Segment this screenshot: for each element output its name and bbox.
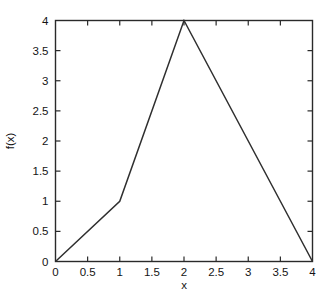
x-tick-label: 2 xyxy=(181,266,187,278)
x-tick-label: 4 xyxy=(309,266,316,278)
line-chart-svg: 00.511.522.533.54 00.511.522.533.54 x f(… xyxy=(0,0,335,300)
chart-background xyxy=(0,0,335,300)
x-tick-label: 0 xyxy=(52,266,58,278)
x-axis-title: x xyxy=(181,279,187,291)
y-axis-title: f(x) xyxy=(4,133,16,150)
y-tick-label: 0.5 xyxy=(33,225,49,237)
y-tick-label: 0 xyxy=(42,256,48,268)
chart-figure: 00.511.522.533.54 00.511.522.533.54 x f(… xyxy=(0,0,335,300)
x-tick-label: 1 xyxy=(117,266,123,278)
y-tick-label: 3 xyxy=(42,75,48,87)
y-tick-label: 2 xyxy=(42,135,48,147)
y-tick-label: 1 xyxy=(42,195,48,207)
x-tick-labels-group: 00.511.522.533.54 xyxy=(52,266,316,278)
x-tick-label: 3.5 xyxy=(272,266,288,278)
x-tick-label: 0.5 xyxy=(80,266,96,278)
y-tick-label: 1.5 xyxy=(33,165,49,177)
y-tick-label: 3.5 xyxy=(33,45,49,57)
x-tick-label: 3 xyxy=(245,266,251,278)
y-tick-label: 2.5 xyxy=(33,105,49,117)
x-tick-label: 1.5 xyxy=(144,266,160,278)
x-tick-label: 2.5 xyxy=(208,266,224,278)
y-tick-label: 4 xyxy=(42,15,49,27)
